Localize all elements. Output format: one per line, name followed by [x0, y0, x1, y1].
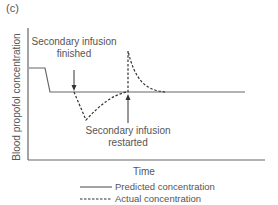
x-axis-label: Time: [133, 166, 155, 177]
y-axis-label: Blood propofol concentration: [11, 33, 22, 160]
annotation-restarted-line2: restarted: [108, 137, 147, 148]
actual-line: [74, 51, 165, 120]
arrow-up-icon: [126, 94, 131, 100]
arrow-down-icon: [72, 85, 77, 91]
annotation-finished-line2: finished: [57, 48, 91, 59]
predicted-line: [29, 68, 245, 92]
annotation-finished-line1: Secondary infusion: [31, 36, 116, 47]
annotation-restarted-line1: Secondary infusion: [85, 125, 170, 136]
legend-actual-label: Actual concentration: [115, 193, 201, 204]
legend-predicted-label: Predicted concentration: [115, 181, 215, 192]
legend: Predicted concentration Actual concentra…: [80, 181, 215, 204]
chart: Secondary infusion finished Secondary in…: [0, 0, 278, 205]
